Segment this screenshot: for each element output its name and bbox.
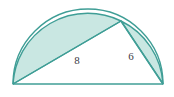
label-leg-short: 6 [128, 50, 134, 62]
left-lune-region [13, 13, 121, 84]
geometry-svg: 8 6 [0, 0, 174, 97]
geometry-figure: 8 6 [0, 0, 174, 97]
label-leg-long: 8 [74, 54, 80, 66]
